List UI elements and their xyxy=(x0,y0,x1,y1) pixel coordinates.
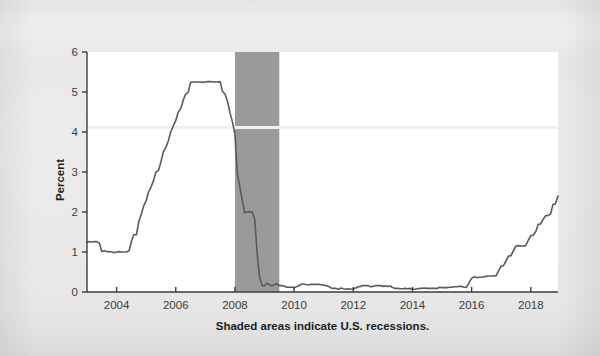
x-tick-label: 2010 xyxy=(281,299,307,311)
recession-footnote: Shaded areas indicate U.S. recessions. xyxy=(216,320,430,332)
x-tick-label: 2006 xyxy=(163,299,189,311)
y-tick-label: 2 xyxy=(72,206,78,218)
y-tick-label: 5 xyxy=(72,86,78,98)
y-tick-label: 0 xyxy=(72,286,78,298)
scan-artifact-band xyxy=(87,126,558,129)
x-tick-label: 2014 xyxy=(400,299,426,311)
y-tick-label: 4 xyxy=(72,126,79,138)
x-tick-label: 2004 xyxy=(104,299,130,311)
x-tick-label: 2016 xyxy=(459,299,485,311)
y-gridlines xyxy=(87,126,558,129)
x-tick-label: 2008 xyxy=(222,299,248,311)
plot-area-background xyxy=(87,52,558,292)
fred-line-chart: 0123456 20042006200820102012201420162018… xyxy=(0,0,600,356)
x-tick-label: 2012 xyxy=(340,299,366,311)
x-tick-label: 2018 xyxy=(518,299,544,311)
y-axis-ticks: 0123456 xyxy=(72,46,87,298)
y-tick-label: 6 xyxy=(72,46,78,58)
chart-canvas: 0123456 20042006200820102012201420162018… xyxy=(0,0,600,356)
y-tick-label: 3 xyxy=(72,166,78,178)
y-axis-title: Percent xyxy=(54,159,66,201)
y-tick-label: 1 xyxy=(72,246,78,258)
